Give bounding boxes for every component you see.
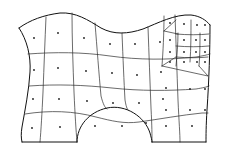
element-centroid-dot [204,51,206,53]
element-centroid-dot [204,109,206,111]
figure-background [0,0,226,156]
element-centroid-dot [204,39,206,41]
element-centroid-dot [159,41,161,43]
element-centroid-dot [165,87,167,89]
element-centroid-dot [204,61,206,63]
element-centroid-dot [134,43,136,45]
element-centroid-dot [169,51,171,53]
element-centroid-dot [162,98,164,100]
element-centroid-dot [59,126,61,128]
element-centroid-dot [58,98,60,100]
element-centroid-dot [204,24,206,26]
element-centroid-dot [57,32,59,34]
element-centroid-dot [195,51,197,53]
element-centroid-dot [109,43,111,45]
element-centroid-dot [57,67,59,69]
element-centroid-dot [189,88,191,90]
element-centroid-dot [183,39,185,41]
element-centroid-dot [204,88,206,90]
element-centroid-dot [136,74,138,76]
element-centroid-dot [33,69,35,71]
element-centroid-dot [169,22,171,24]
element-centroid-dot [183,51,185,53]
element-centroid-dot [160,71,162,73]
element-centroid-dot [32,98,34,100]
element-centroid-dot [112,102,114,104]
element-centroid-dot [138,102,140,104]
element-centroid-dot [169,39,171,41]
element-centroid-dot [31,127,33,129]
element-centroid-dot [183,61,185,63]
element-centroid-dot [196,61,198,63]
element-centroid-dot [86,100,88,102]
element-centroid-dot [196,24,198,26]
element-centroid-dot [191,125,193,127]
element-centroid-dot [111,72,113,74]
element-centroid-dot [195,39,197,41]
mesh-figure-canvas: Quadrilateral finite-element mesh on a c… [0,0,226,156]
element-centroid-dot [33,37,35,39]
element-centroid-dot [165,125,167,127]
element-centroid-dot [189,109,191,111]
element-centroid-dot [169,61,171,63]
element-centroid-dot [94,125,96,127]
element-centroid-dot [85,70,87,72]
element-centroid-dot [183,23,185,25]
element-centroid-dot [121,125,123,127]
element-centroid-dot [165,109,167,111]
element-centroid-dot [83,37,85,39]
element-centroid-dot [145,122,147,124]
